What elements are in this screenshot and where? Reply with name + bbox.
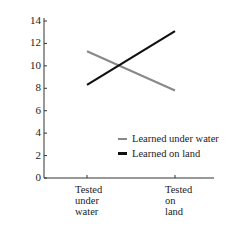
y-tick-label: 2 xyxy=(21,149,41,161)
y-tick-label: 0 xyxy=(21,171,41,183)
legend: Learned under water Learned on land xyxy=(118,131,219,161)
x-category-line: land xyxy=(165,206,192,217)
y-tick-label: 8 xyxy=(21,81,41,93)
y-tick-label: 14 xyxy=(21,14,41,26)
y-tick-label: 12 xyxy=(21,36,41,48)
x-category-1: Tested on land xyxy=(165,184,192,217)
y-tick-label: 10 xyxy=(21,59,41,71)
legend-label: Learned under water xyxy=(132,131,219,146)
y-tick-label: 4 xyxy=(21,126,41,138)
line-chart: Number of words recalled 02468101214 Tes… xyxy=(0,0,230,228)
legend-swatch-icon xyxy=(118,152,127,155)
legend-swatch-icon xyxy=(118,138,127,140)
x-category-line: Tested xyxy=(75,184,102,195)
x-category-0: Tested under water xyxy=(75,184,102,217)
legend-item-learned-on-land: Learned on land xyxy=(118,146,219,161)
legend-label: Learned on land xyxy=(132,146,200,161)
x-category-line: under xyxy=(75,195,102,206)
x-category-line: Tested xyxy=(165,184,192,195)
x-category-line: on xyxy=(165,195,192,206)
series-lines xyxy=(87,31,175,90)
x-category-line: water xyxy=(75,206,102,217)
legend-item-learned-under-water: Learned under water xyxy=(118,131,219,146)
y-tick-label: 6 xyxy=(21,104,41,116)
